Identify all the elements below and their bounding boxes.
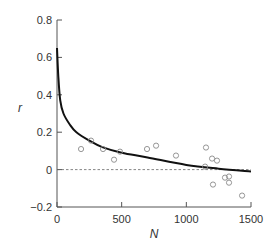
chart-container: −0.200.20.40.60.8050010001500Nr	[0, 0, 274, 246]
y-axis-title: r	[18, 101, 23, 115]
data-point	[226, 180, 231, 185]
data-point	[209, 156, 214, 161]
x-tick-label: 1500	[239, 213, 263, 225]
x-tick-label: 0	[54, 213, 60, 225]
y-tick-label: −0.2	[30, 201, 52, 213]
axes	[57, 20, 251, 207]
y-tick-label: 0	[46, 164, 52, 176]
data-point	[203, 145, 208, 150]
fitted-curve-path	[57, 48, 251, 171]
data-point	[210, 182, 215, 187]
fitted-curve	[57, 48, 251, 171]
data-point	[173, 153, 178, 158]
x-tick-label: 1000	[174, 213, 198, 225]
data-point	[111, 157, 116, 162]
x-tick-label: 500	[112, 213, 130, 225]
data-point	[214, 158, 219, 163]
y-tick-label: 0.8	[37, 14, 52, 26]
y-tick-label: 0.6	[37, 51, 52, 63]
data-point	[153, 143, 158, 148]
x-axis-title: N	[150, 227, 159, 241]
scatter-plot: −0.200.20.40.60.8050010001500Nr	[0, 0, 274, 246]
data-point	[239, 193, 244, 198]
y-tick-label: 0.2	[37, 126, 52, 138]
data-point	[144, 146, 149, 151]
data-point	[78, 146, 83, 151]
y-tick-label: 0.4	[37, 89, 52, 101]
